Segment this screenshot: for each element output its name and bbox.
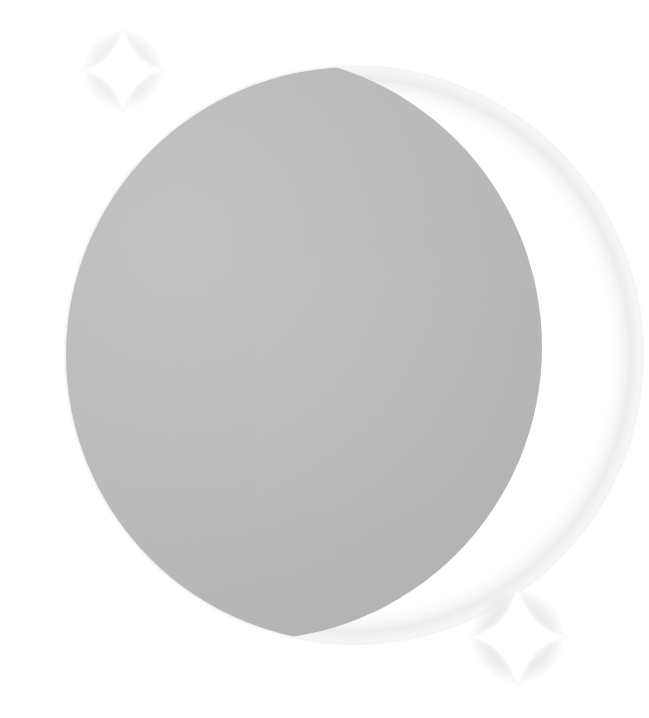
illustration-canvas: Crescent Moon Illustration: [0, 0, 649, 718]
moon-illustration: [0, 0, 649, 718]
